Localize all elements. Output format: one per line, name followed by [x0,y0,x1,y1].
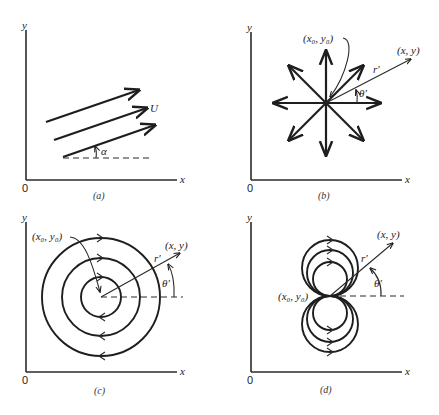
point-label: (x, y) [397,44,420,57]
angle-label: θ′ [359,87,367,99]
y-axis-label: y [21,19,27,31]
angle-label: θ′ [162,277,170,289]
panel-d-doublet: y x 0 (d) (x₀, y₀) (x, y) r′ θ′ [246,211,410,396]
radial-arrow [289,103,326,140]
radius-label: r′ [154,252,161,264]
flow-arrow [54,108,147,140]
panel-caption: (a) [93,190,105,202]
panel-caption: (c) [94,385,106,397]
x-axis-label: x [404,365,410,377]
radial-arrow [326,103,363,140]
streamline-loop [313,296,347,330]
streamline-loop [313,262,347,296]
position-vector [326,59,411,103]
radius-label: r′ [373,63,380,75]
flow-diagram: y x 0 (a) U α y x 0 (b) (x₀ [0,0,439,415]
angle-arc-icon [95,146,96,158]
x-axis-label: x [404,173,410,185]
panel-b-source: y x 0 (b) (x₀, y₀) (x, y) r′ θ′ [246,21,420,202]
panel-caption: (d) [320,384,332,396]
y-axis-label: y [246,211,252,223]
point-label: (x, y) [165,239,188,252]
x-axis-label: x [179,173,185,185]
origin-label: 0 [22,374,28,386]
velocity-label: U [150,102,159,114]
angle-label: θ′ [374,277,382,289]
origin-label: 0 [247,182,253,194]
flow-arrow [63,125,155,157]
radius-label: r′ [361,252,368,264]
center-label: (x₀, y₀) [32,230,63,243]
angle-arc-icon [356,90,357,103]
y-axis-label: y [246,21,252,33]
y-axis-label: y [21,211,27,223]
point-label: (x, y) [377,228,400,241]
origin-label: 0 [22,182,28,194]
panel-caption: (b) [318,190,330,202]
angle-label: α [101,145,107,157]
radial-arrow [289,66,326,103]
panel-a-uniform-flow: y x 0 (a) U α [21,19,185,202]
x-axis-label: x [179,365,185,377]
panel-c-vortex: y x 0 (c) (x₀, y₀) (x, y) r′ θ′ [21,211,188,397]
position-vector [330,243,393,296]
center-label: (x₀, y₀) [278,290,309,303]
origin-label: 0 [247,374,253,386]
flow-arrow [46,90,139,122]
center-label: (x₀, y₀) [303,32,334,45]
